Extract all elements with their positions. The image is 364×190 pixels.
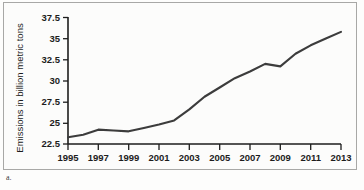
x-tick-label: 2003 xyxy=(179,152,200,163)
figure-caption-label: a. xyxy=(6,173,12,182)
x-tick-label: 2001 xyxy=(148,152,170,163)
x-tick-label: 1997 xyxy=(88,152,109,163)
y-tick-label: 27.5 xyxy=(42,96,61,107)
y-tick-label: 25 xyxy=(49,117,60,128)
y-tick-label: 35 xyxy=(49,33,60,44)
x-tick-label: 1995 xyxy=(57,152,79,163)
y-tick-labels: 37.5 35 32.5 30 27.5 25 22.5 xyxy=(42,12,61,149)
x-tick-label: 2007 xyxy=(239,152,260,163)
x-tick-labels: 1995 1997 1999 2001 2003 2005 2007 2009 … xyxy=(57,152,351,163)
x-tick-label: 2005 xyxy=(209,152,231,163)
figure-container: Emissions in billion metric tons 37.5 35… xyxy=(0,0,364,190)
y-tick-label: 32.5 xyxy=(42,54,61,65)
x-tick-label: 2009 xyxy=(270,152,291,163)
y-tick-label: 30 xyxy=(49,75,60,86)
x-tick-marks xyxy=(68,144,341,150)
chart-area: Emissions in billion metric tons 37.5 35… xyxy=(0,0,364,190)
emissions-series-line xyxy=(68,32,341,137)
x-tick-label: 1999 xyxy=(118,152,139,163)
y-axis-title: Emissions in billion metric tons xyxy=(14,23,25,153)
y-tick-label: 37.5 xyxy=(42,12,61,23)
x-tick-label: 2011 xyxy=(300,152,321,163)
x-tick-label: 2013 xyxy=(330,152,351,163)
emissions-line-chart: Emissions in billion metric tons 37.5 35… xyxy=(0,0,364,190)
y-tick-label: 22.5 xyxy=(42,138,61,149)
